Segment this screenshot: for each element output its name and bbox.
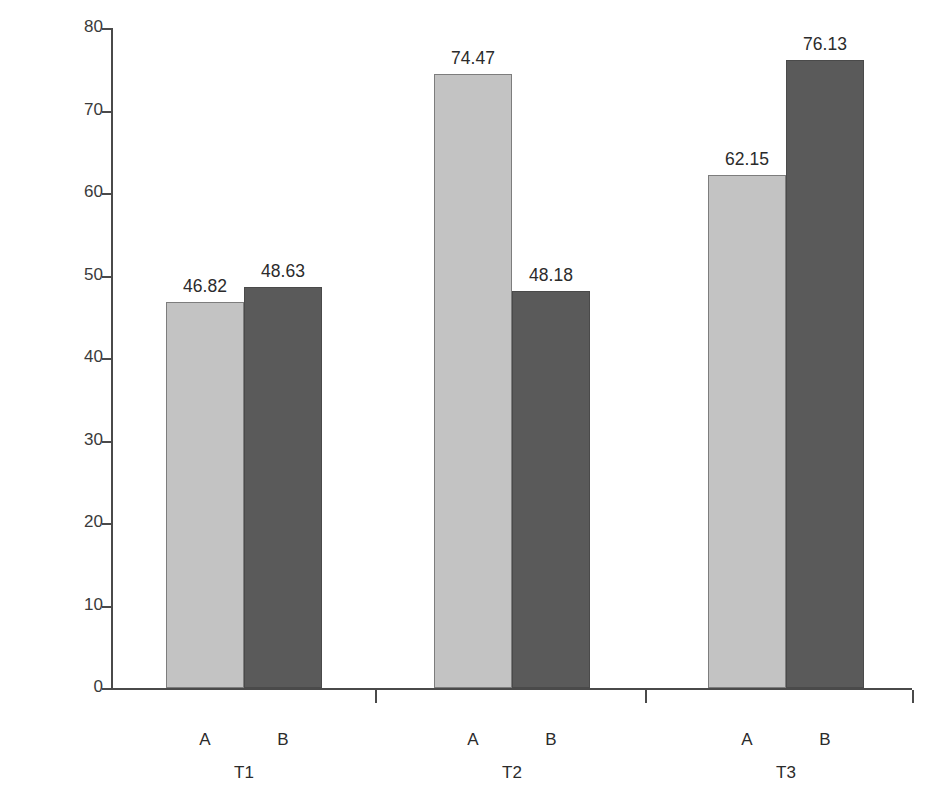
y-tick-label: 50 <box>84 265 103 285</box>
bar-value-label: 76.13 <box>803 34 847 55</box>
x-series-label: A <box>467 730 478 750</box>
y-tick-mark <box>102 441 111 443</box>
x-series-label: A <box>199 730 210 750</box>
bar-value-label: 48.18 <box>529 265 573 286</box>
y-tick-label: 60 <box>84 182 103 202</box>
bar[interactable]: 76.13 <box>786 60 864 688</box>
bar[interactable]: 74.47 <box>434 74 512 688</box>
x-series-label: A <box>741 730 752 750</box>
bar-chart: % Success 01020304050607080 46.8248.6374… <box>0 0 933 789</box>
y-tick-mark <box>102 358 111 360</box>
bar-value-label: 74.47 <box>451 48 495 69</box>
bar[interactable]: 62.15 <box>708 175 786 688</box>
x-group-label: T1 <box>234 763 254 783</box>
y-tick-label: 80 <box>84 17 103 37</box>
y-tick-mark <box>102 688 111 690</box>
x-group-label: T2 <box>502 763 522 783</box>
x-group-tick <box>645 690 647 703</box>
x-group-label: T3 <box>776 763 796 783</box>
bar-value-label: 46.82 <box>183 276 227 297</box>
bar[interactable]: 46.82 <box>166 302 244 688</box>
bar-value-label: 62.15 <box>725 149 769 170</box>
x-series-label: B <box>277 730 288 750</box>
y-tick-mark <box>102 606 111 608</box>
x-series-label: B <box>819 730 830 750</box>
y-tick-mark <box>102 111 111 113</box>
bar-value-label: 48.63 <box>261 261 305 282</box>
bar[interactable]: 48.63 <box>244 287 322 688</box>
y-tick-label: 20 <box>84 512 103 532</box>
y-tick-mark <box>102 523 111 525</box>
y-tick-label: 70 <box>84 100 103 120</box>
y-axis-line <box>111 28 113 690</box>
y-tick-mark <box>102 28 111 30</box>
y-tick-label: 0 <box>94 677 103 697</box>
plot-area: 01020304050607080 46.8248.6374.4748.1862… <box>111 28 912 690</box>
x-series-label: B <box>545 730 556 750</box>
x-group-tick <box>912 690 914 703</box>
bar[interactable]: 48.18 <box>512 291 590 688</box>
y-tick-label: 10 <box>84 595 103 615</box>
y-tick-label: 40 <box>84 347 103 367</box>
x-axis-line <box>111 688 912 690</box>
y-tick-mark <box>102 193 111 195</box>
y-tick-label: 30 <box>84 430 103 450</box>
x-group-tick <box>375 690 377 703</box>
y-tick-mark <box>102 276 111 278</box>
